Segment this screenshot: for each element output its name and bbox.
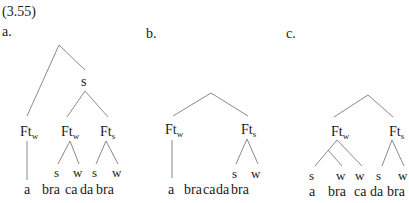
edge-root-to-fts	[211, 93, 248, 116]
edge-ftw-to-s	[315, 140, 337, 166]
edge-root-to-ftw	[173, 93, 211, 116]
edge-root-to-ftw	[334, 95, 368, 117]
syllable: bra	[42, 182, 61, 197]
tree-c-label: c.	[286, 26, 296, 41]
edge-ftw-to-w-ca	[337, 140, 362, 166]
syllable: da	[216, 182, 230, 197]
node-ft-w: Ftw	[165, 122, 184, 139]
edge-fts-to-s	[96, 141, 106, 164]
prominence-w: w	[112, 165, 122, 180]
edge-root-to-fts	[368, 95, 393, 117]
syllable: a	[24, 182, 31, 197]
edge-s-to-ftw2	[67, 91, 85, 117]
syllable: bra	[328, 184, 347, 199]
edge-fts-to-s	[236, 139, 247, 164]
edge-root-to-s	[59, 45, 85, 70]
tree-a: a. s Ftw Ftw Fts s w s w a bra ca da bra	[2, 24, 122, 197]
syllable: a	[168, 182, 175, 197]
prominence-s: s	[232, 166, 237, 181]
tree-a-label: a.	[2, 24, 12, 39]
edge-ftw2-to-w	[70, 141, 79, 164]
edge-fts-to-w	[106, 141, 118, 164]
tree-c: c. Ftw Fts s w w s w a bra ca da bra	[286, 26, 408, 199]
edge-fts-to-s	[382, 140, 392, 166]
prominence-s: s	[54, 165, 59, 180]
edge-s-to-fts	[85, 91, 108, 117]
node-ft-s: Fts	[100, 124, 116, 141]
edge-fts-to-w	[247, 139, 258, 164]
node-ft-s: Fts	[389, 124, 405, 141]
edge-inner-to-w-bra	[328, 150, 342, 166]
syllable: ca	[354, 184, 367, 199]
tree-b: b. Ftw Fts s w a bra ca da bra	[146, 26, 261, 197]
prominence-s: s	[376, 168, 381, 183]
node-ft-w-1: Ftw	[20, 124, 39, 141]
prominence-w: w	[336, 168, 346, 183]
syllable: da	[80, 182, 94, 197]
tree-b-label: b.	[146, 26, 157, 41]
node-s: s	[81, 74, 86, 89]
syllable: bra	[387, 184, 406, 199]
node-ft-w-2: Ftw	[61, 124, 80, 141]
syllable: da	[370, 184, 384, 199]
syllable: ca	[203, 182, 216, 197]
example-number: (3.55)	[2, 4, 36, 20]
prominence-w: w	[355, 168, 365, 183]
edge-fts-to-w	[392, 140, 404, 166]
syllable: bra	[96, 182, 115, 197]
syllable: bra	[231, 182, 250, 197]
syllable: ca	[65, 182, 78, 197]
node-ft-w: Ftw	[331, 124, 350, 141]
syllable: a	[309, 184, 316, 199]
edge-root-to-ftw1	[27, 45, 59, 116]
edge-ftw2-to-s	[58, 141, 70, 164]
metrical-trees-figure: (3.55) a. s Ftw Ftw Fts s w s w a bra ca…	[0, 0, 409, 203]
syllable: bra	[184, 182, 203, 197]
prominence-w: w	[251, 166, 261, 181]
node-ft-s: Fts	[241, 122, 257, 139]
prominence-s: s	[309, 168, 314, 183]
prominence-w: w	[398, 168, 408, 183]
prominence-w: w	[73, 165, 83, 180]
prominence-s: s	[92, 165, 97, 180]
